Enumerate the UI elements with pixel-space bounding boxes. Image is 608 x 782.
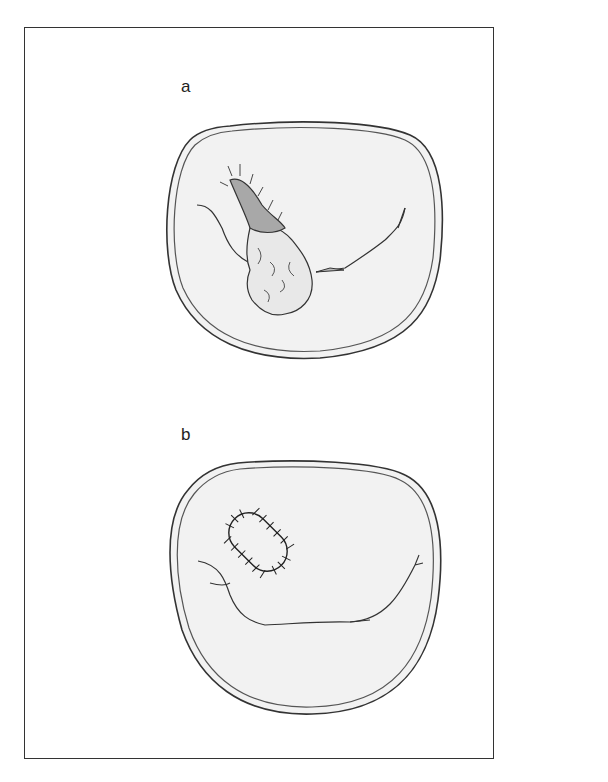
panel-a-section [167, 122, 443, 359]
illustration [0, 0, 608, 782]
panel-b-section [170, 461, 441, 714]
